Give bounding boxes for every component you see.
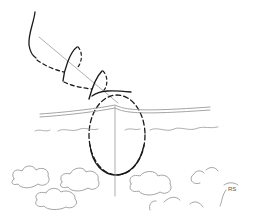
loop-2-dashed [103, 71, 107, 90]
dashed-path-1 [37, 60, 64, 72]
horizon-line-top [40, 105, 210, 114]
dashed-path-2 [64, 82, 92, 89]
cloud-2 [60, 168, 99, 191]
ellipse-bottom-solid [90, 145, 144, 175]
cloud-5 [149, 197, 180, 210]
artist-signature: RS [228, 186, 236, 192]
hook-stroke [29, 12, 36, 58]
cloud-6 [191, 167, 218, 183]
loop-1-dashed [78, 47, 81, 67]
loop-1-solid [63, 47, 77, 81]
cloud-3 [36, 188, 77, 209]
horizon-line-bottom [40, 108, 210, 117]
wave-line [35, 127, 218, 131]
cloud-1 [12, 166, 49, 188]
cloud-4 [130, 172, 171, 195]
sketch-canvas [0, 0, 255, 224]
loop-2-solid [89, 71, 102, 99]
